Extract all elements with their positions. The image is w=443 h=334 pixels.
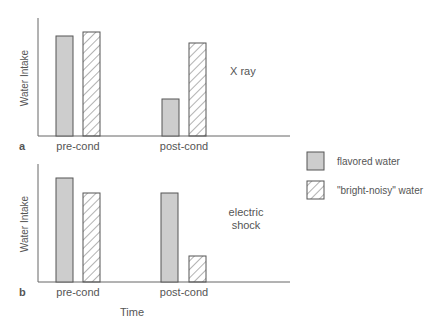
legend: flavored water "bright-noisy" water [307,152,424,199]
panel-label: a [19,140,26,152]
y-axis-label: Water Intake [19,195,30,252]
category-label: pre-cond [56,140,99,152]
bar-flavored-pre [56,178,73,282]
bar-bright-noisy-post [189,256,206,282]
figure: Water Intake a pre-cond post-cond X ray … [0,0,443,334]
legend-label: "bright-noisy" water [337,185,424,196]
bar-flavored-post [162,99,179,136]
bar-flavored-post [161,193,178,282]
bar-bright-noisy-post [189,43,206,136]
category-label: pre-cond [56,286,99,298]
bar-bright-noisy-pre [83,32,100,136]
legend-label: flavored water [337,156,400,167]
y-axis-label: Water Intake [19,49,30,106]
annotation: X ray [230,65,256,77]
annotation: electric [229,206,264,218]
panel-label: b [19,286,26,298]
bar-flavored-pre [56,36,73,136]
legend-swatch-gray [307,152,324,170]
x-axis-label: Time [120,306,144,318]
legend-swatch-hatched [307,181,324,199]
chart-panel-a: Water Intake a pre-cond post-cond X ray [19,18,290,152]
annotation: shock [232,219,261,231]
category-label: post-cond [160,140,208,152]
category-label: post-cond [160,286,208,298]
bar-bright-noisy-pre [83,193,100,282]
chart-panel-b: Water Intake b pre-cond post-cond electr… [19,164,290,318]
